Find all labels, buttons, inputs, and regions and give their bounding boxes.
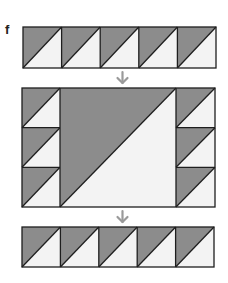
hst-unit (177, 27, 216, 68)
top-row (23, 27, 216, 68)
hst-unit (176, 227, 214, 267)
left-column (22, 88, 60, 207)
down-arrow-icon (118, 211, 128, 222)
hst-unit (137, 227, 175, 267)
quilt-diagram (0, 0, 228, 283)
bottom-row (22, 227, 214, 267)
right-column (176, 88, 215, 207)
middle-block (22, 88, 215, 207)
hst-unit (99, 227, 137, 267)
down-arrow-icon (118, 72, 128, 83)
hst-unit (100, 27, 139, 68)
hst-unit (60, 227, 98, 267)
hst-unit (62, 27, 101, 68)
center-large-hst (60, 88, 176, 207)
hst-unit (22, 227, 60, 267)
hst-unit (23, 27, 62, 68)
hst-unit (139, 27, 178, 68)
